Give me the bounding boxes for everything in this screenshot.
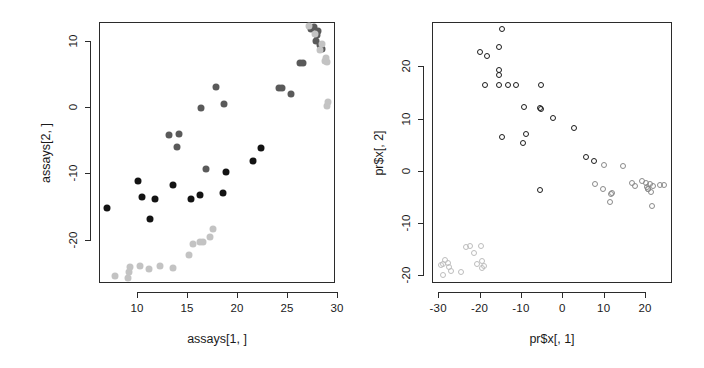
x-axis-tick [645,292,646,298]
x-axis-tick-label: -30 [430,302,447,314]
x-axis-tick [187,292,188,298]
x-axis-tick-label: 25 [280,302,293,314]
data-point [137,262,144,269]
data-point [176,131,183,138]
x-axis-tick-label: 30 [330,302,343,314]
data-point [496,72,502,78]
data-point [571,125,577,131]
data-point [300,60,307,67]
x-axis-tick-label: 20 [230,302,243,314]
x-axis-tick [562,292,563,298]
data-point [104,204,111,211]
data-point [538,82,544,88]
y-axis-tick [418,119,424,120]
data-point [448,268,454,274]
data-point [198,105,205,112]
data-point [312,30,319,37]
y-axis-tick-label: 0 [400,167,412,174]
x-axis-title-right: pr$x[, 1] [529,332,574,346]
x-axis-tick-label: 15 [180,302,193,314]
x-axis-tick [237,292,238,298]
data-point [166,131,173,138]
data-point [324,103,331,110]
data-point [607,199,613,205]
scatter-panel-left: 1015202530100-10-20 assays[1, ] assays[2… [0,0,352,368]
x-axis-tick-label: -20 [471,302,488,314]
y-axis-tick-label: -10 [400,214,412,231]
y-axis-tick [418,223,424,224]
data-point [152,196,159,203]
x-axis-line [438,292,645,293]
data-point [440,272,446,278]
data-point [221,101,228,108]
data-point [482,82,488,88]
data-point [484,53,490,59]
data-point [609,190,615,196]
x-axis-tick-label: 10 [597,302,610,314]
data-point [481,263,487,269]
data-point [157,263,164,270]
data-point [650,183,656,189]
data-point [250,157,257,164]
data-point [186,252,193,259]
y-axis-tick-label: 20 [400,60,412,73]
y-axis-tick-label: -20 [67,231,79,248]
x-axis-title-left: assays[1, ] [187,332,247,346]
data-point [139,194,146,201]
x-axis-tick [137,292,138,298]
y-axis-tick-label: 10 [67,34,79,47]
y-axis-tick [85,240,91,241]
data-point [197,191,204,198]
data-point [467,243,473,249]
data-point [583,154,589,160]
data-point [661,182,667,188]
data-point [600,186,606,192]
x-axis-tick [287,292,288,298]
x-axis-tick-label: 0 [559,302,566,314]
data-point [649,203,655,209]
y-axis-tick [85,107,91,108]
data-point [203,165,210,172]
data-point [127,264,134,271]
data-point [317,46,324,53]
data-point [200,239,207,246]
x-axis-tick [521,292,522,298]
y-axis-tick [418,66,424,67]
y-axis-tick-label: -20 [400,267,412,284]
data-point [188,195,195,202]
data-point [170,264,177,271]
x-axis-tick [337,292,338,298]
data-point [620,163,626,169]
x-axis-tick-label: 20 [638,302,651,314]
data-point [220,190,227,197]
y-axis-tick-label: 0 [67,104,79,111]
y-axis-tick [418,171,424,172]
data-point [146,266,153,273]
data-point [112,272,119,279]
data-point [537,187,543,193]
data-point [478,243,484,249]
data-point [288,91,295,98]
data-point [170,181,177,188]
data-point [601,162,607,168]
data-point [505,82,511,88]
data-point [458,269,464,275]
y-axis-tick [85,173,91,174]
data-point [213,84,220,91]
data-point [521,104,527,110]
data-point [258,145,265,152]
data-point [592,181,598,187]
y-axis-tick-label: -10 [67,165,79,182]
data-point [499,26,505,32]
x-axis-tick-label: -10 [512,302,529,314]
data-point [306,22,313,29]
data-point [147,215,154,222]
x-axis-tick [480,292,481,298]
x-axis-tick [438,292,439,298]
y-axis-tick [85,41,91,42]
figure-canvas: 1015202530100-10-20 assays[1, ] assays[2… [0,0,704,368]
data-point [279,85,286,92]
y-axis-line [90,41,91,240]
y-axis-title-left: assays[2, ] [39,123,53,183]
x-axis-tick-label: 10 [130,302,143,314]
